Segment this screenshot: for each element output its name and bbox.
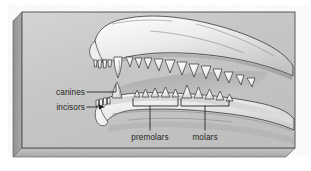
slab-bottom-bevel (13, 148, 295, 157)
upper-incisor-1 (94, 60, 97, 67)
label-incisors: incisors (56, 103, 85, 112)
upper-incisor-4 (108, 60, 112, 67)
label-premolars: premolars (131, 133, 168, 142)
lower-incisor-1 (96, 100, 99, 106)
label-molars: molars (192, 133, 217, 142)
lower-incisor-2 (100, 99, 103, 106)
upper-incisor-2 (98, 60, 102, 68)
label-canines: canines (56, 88, 85, 97)
upper-incisor-3 (103, 60, 107, 68)
lower-incisor-4 (108, 98, 111, 104)
lower-incisor-3 (104, 98, 107, 105)
slab-left-bevel (13, 12, 22, 157)
dentition-figure: canines incisors premolars molars (0, 0, 311, 171)
diagram-canvas: canines incisors premolars molars (0, 0, 311, 171)
